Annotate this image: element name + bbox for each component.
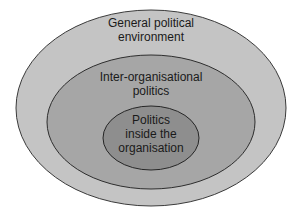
- inner-label-line-2: inside the: [106, 127, 196, 141]
- inner-label-line-3: organisation: [106, 141, 196, 155]
- middle-label-line-1: Inter-organisational: [91, 70, 211, 84]
- outer-label-line-1: General political: [96, 16, 206, 30]
- middle-layer-label: Inter-organisational politics: [91, 70, 211, 98]
- outer-label-line-2: environment: [96, 30, 206, 44]
- outer-layer-label: General political environment: [96, 16, 206, 44]
- inner-layer-label: Politics inside the organisation: [106, 113, 196, 155]
- inner-label-line-1: Politics: [106, 113, 196, 127]
- nested-politics-diagram: General political environment Inter-orga…: [0, 0, 298, 218]
- middle-label-line-2: politics: [91, 84, 211, 98]
